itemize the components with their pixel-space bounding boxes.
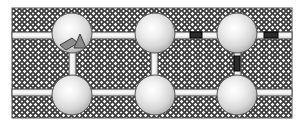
node-bottom-center[interactable] [135, 75, 175, 115]
node-bottom-right[interactable] [217, 75, 257, 115]
defect-marker-top-bar-left [190, 32, 202, 38]
node-top-center[interactable] [135, 13, 175, 53]
node-top-right[interactable] [217, 13, 257, 53]
diagram-canvas [0, 0, 301, 130]
defect-marker-vertical-right [234, 56, 240, 71]
defect-marker-top-bar-right [264, 32, 278, 38]
node-bottom-left[interactable] [52, 75, 92, 115]
lattice-diagram [0, 0, 301, 130]
